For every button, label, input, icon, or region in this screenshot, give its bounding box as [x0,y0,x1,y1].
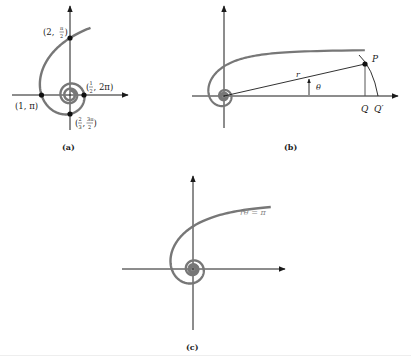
label-two-thirds-3pi-over-2: ( 2 3 , 3π 2 ) [75,116,97,130]
svg-text:, 2π): , 2π) [94,82,114,92]
point-P [362,61,367,66]
panel-c-caption: (c) [186,342,199,352]
label-P: P [371,54,379,64]
svg-text:): ) [94,118,97,128]
point-two-thirds-3pi-over-2 [67,111,72,116]
panel-a: (2, π 2 ) (1, π) ( 1 2 , 2π) ( 2 3 , 3π … [12,6,128,152]
point-half-2pi [81,92,86,97]
svg-text:2: 2 [90,88,93,94]
svg-text:,: , [83,118,86,128]
svg-text:): ) [65,27,68,37]
panel-c-spiral [170,207,270,284]
diagram-canvas: (2, π 2 ) (1, π) ( 1 2 , 2π) ( 2 3 , 3π … [0,0,411,362]
panel-a-caption: (a) [62,142,75,152]
svg-text:π: π [60,25,64,31]
svg-text:2: 2 [88,124,91,130]
svg-text:3: 3 [79,124,82,130]
label-2-pi-over-2: (2, π 2 ) [43,25,68,39]
equation-label: rθ = π [240,208,266,217]
panel-b-spiral [208,50,365,106]
svg-text:(2,: (2, [43,27,54,37]
label-half-2pi: ( 1 2 , 2π) [86,80,113,94]
bottom-border [0,355,411,356]
label-Q-prime: Q′ [374,104,383,114]
label-r: r [296,70,301,79]
point-2-pi-over-2 [67,35,72,40]
radius-line-r [224,64,365,96]
svg-text:2: 2 [79,116,82,122]
label-1-pi: (1, π) [15,101,38,111]
label-Q: Q [361,104,369,114]
svg-text:1: 1 [90,80,93,86]
panel-b-caption: (b) [284,142,297,152]
point-1-pi [39,92,44,97]
svg-text:2: 2 [60,33,63,39]
panel-b: P r θ Q Q′ (b) [192,6,398,152]
panel-c: rθ = π (c) [122,176,285,352]
panel-a-spiral [40,28,91,115]
label-theta: θ [316,83,321,92]
